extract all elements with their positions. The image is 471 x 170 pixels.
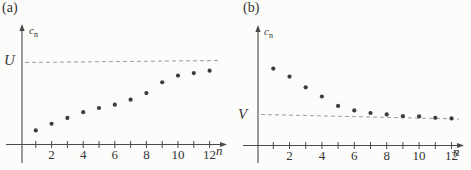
data-point — [336, 104, 340, 108]
y-axis-arrowhead-icon — [255, 25, 260, 32]
x-tick-label: 6 — [351, 149, 358, 162]
data-point — [129, 98, 133, 102]
data-point — [176, 74, 180, 78]
data-point — [449, 116, 453, 120]
x-tick-label: 4 — [80, 148, 87, 161]
panel-a — [6, 24, 227, 163]
x-tick-label: 10 — [172, 148, 185, 161]
data-point — [352, 108, 356, 112]
data-point — [97, 106, 101, 110]
y-axis-label-b-sub: n — [269, 31, 273, 40]
x-tick-label: 8 — [143, 148, 150, 161]
x-tick-label: 12 — [445, 149, 458, 162]
data-point — [160, 80, 164, 84]
x-axis-label-a: n — [216, 144, 223, 157]
data-point — [34, 128, 38, 132]
y-axis-label-a-sub: n — [34, 30, 38, 39]
x-tick-label: 8 — [383, 149, 390, 162]
bound-dashed-line — [25, 61, 221, 63]
x-tick-label: 2 — [48, 148, 55, 161]
x-tick-label: 12 — [203, 148, 216, 161]
y-axis-label-b: cn — [264, 26, 273, 40]
x-tick-label: 4 — [319, 149, 326, 162]
plots-canvas — [0, 0, 471, 170]
x-tick-label: 10 — [413, 149, 426, 162]
data-point — [271, 66, 275, 70]
y-axis-label-a: cn — [29, 25, 38, 39]
panel-a-label: (a) — [2, 1, 18, 15]
data-point — [208, 69, 212, 73]
data-point — [385, 112, 389, 116]
data-point — [320, 94, 324, 98]
data-point — [65, 116, 69, 120]
data-point — [417, 114, 421, 118]
data-point — [113, 103, 117, 107]
panel-b-label: (b) — [243, 1, 259, 15]
data-point — [81, 110, 85, 114]
data-point — [304, 85, 308, 89]
data-point — [401, 114, 405, 118]
data-point — [50, 122, 54, 126]
x-tick-label: 6 — [112, 148, 119, 161]
data-point — [368, 111, 372, 115]
sequence-bounds-figure: (a) (b) cn cn U V n n 2468101224681012 — [0, 0, 471, 170]
lower-bound-label: V — [238, 107, 247, 122]
data-point — [192, 71, 196, 75]
panel-b — [243, 25, 464, 163]
data-point — [144, 91, 148, 95]
y-axis-arrowhead-icon — [19, 24, 24, 31]
bound-dashed-line — [261, 115, 459, 120]
data-point — [433, 116, 437, 120]
data-point — [287, 74, 291, 78]
upper-bound-label: U — [4, 53, 15, 68]
x-tick-label: 2 — [286, 149, 293, 162]
